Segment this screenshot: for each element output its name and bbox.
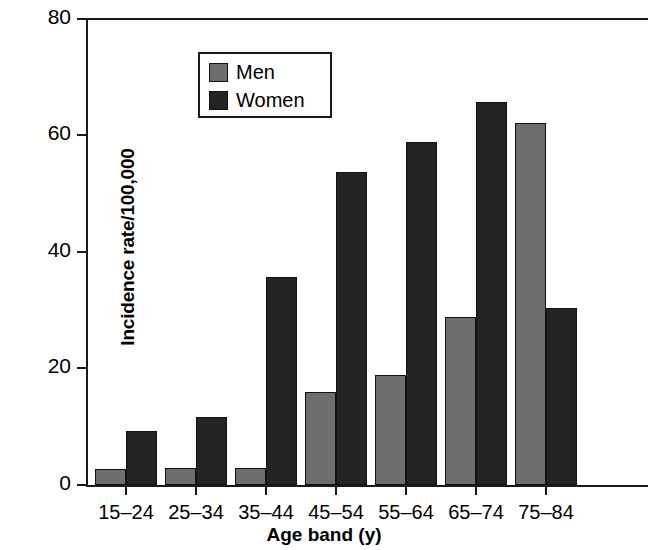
plot-area: 0 20 40 60 80 15–24 25–34 35–44 45–54 55… — [86, 18, 648, 485]
x-tick-1 — [195, 485, 197, 495]
bar-women-45-54 — [336, 172, 367, 485]
y-tick-20: 20 — [77, 367, 86, 369]
y-tick-40: 40 — [77, 251, 86, 253]
x-tick-5 — [475, 485, 477, 495]
y-tick-label-80: 80 — [48, 5, 71, 29]
x-tick-4 — [405, 485, 407, 495]
bar-men-45-54 — [305, 392, 336, 485]
x-axis-line — [86, 485, 648, 487]
bar-men-25-34 — [165, 468, 196, 485]
bar-men-65-74 — [445, 317, 476, 485]
bar-men-75-84 — [515, 123, 546, 485]
legend-item-men: Men — [209, 60, 275, 84]
y-axis-line — [86, 18, 88, 485]
y-tick-label-40: 40 — [48, 238, 71, 262]
bar-men-15-24 — [95, 469, 126, 485]
bar-women-55-64 — [406, 142, 437, 485]
plot-top-border — [86, 18, 648, 20]
x-tick-3 — [335, 485, 337, 495]
legend: Men Women — [198, 52, 332, 118]
x-tick-label-6: 75–84 — [500, 500, 592, 524]
x-axis-title: Age band (y) — [0, 524, 648, 546]
bar-women-25-34 — [196, 417, 227, 485]
legend-item-women: Women — [209, 88, 305, 112]
x-tick-0 — [125, 485, 127, 495]
legend-swatch-men-icon — [209, 63, 228, 82]
legend-swatch-women-icon — [209, 91, 228, 110]
legend-label-women: Women — [236, 89, 305, 111]
bar-women-65-74 — [476, 102, 507, 485]
x-tick-2 — [265, 485, 267, 495]
bar-men-35-44 — [235, 468, 266, 485]
y-tick-80: 80 — [77, 18, 86, 20]
bar-men-55-64 — [375, 375, 406, 485]
legend-label-men: Men — [236, 61, 275, 83]
y-tick-60: 60 — [77, 134, 86, 136]
y-tick-label-0: 0 — [59, 471, 71, 495]
x-tick-6 — [545, 485, 547, 495]
bar-women-15-24 — [126, 431, 157, 485]
y-tick-label-20: 20 — [48, 354, 71, 378]
bar-chart-figure: Incidence rate/100,000 0 20 40 60 80 15–… — [0, 0, 648, 550]
bar-women-75-84 — [546, 308, 577, 485]
bar-women-35-44 — [266, 277, 297, 485]
y-tick-0: 0 — [77, 484, 86, 486]
y-tick-label-60: 60 — [48, 121, 71, 145]
